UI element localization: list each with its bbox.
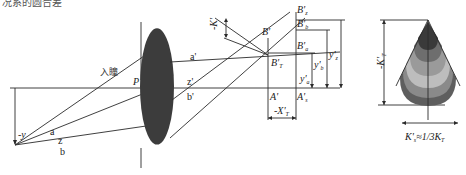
label-B-prime: B' — [262, 26, 271, 37]
arrow-head-icon — [339, 84, 343, 88]
diagram-canvas: 况系的圆合差 -y 入瞳 a z b P a' z' b' -K' B' B'T… — [0, 0, 466, 175]
coma-flare-figure: -K'T K's≈1/3KT — [375, 20, 460, 143]
label-B-prime-a: B'a — [297, 40, 308, 52]
label-z: z — [58, 135, 63, 146]
label-b: b — [60, 146, 65, 157]
label-y-prime-z: y'z — [328, 49, 339, 61]
ray-a — [15, 45, 160, 145]
label-neg-X-prime-T: -X'T — [274, 105, 290, 117]
arrow-head-icon — [268, 116, 272, 120]
label-coma-relation: K's≈1/3KT — [404, 131, 445, 143]
label-b-prime: b' — [187, 91, 194, 102]
upper-ray-1 — [215, 18, 268, 55]
arrow-head-icon — [325, 84, 329, 88]
arrow-head-icon — [310, 84, 314, 88]
label-P: P — [132, 76, 139, 87]
ray-b — [15, 124, 160, 145]
upper-ray-2 — [224, 38, 268, 55]
label-a-prime: a' — [190, 51, 196, 62]
label-y-prime-b: y'b — [313, 59, 324, 71]
label-B-prime-T: B'T — [271, 57, 283, 69]
label-B-prime-z: B'z — [297, 4, 308, 16]
label-A-prime-s: A's — [296, 91, 308, 103]
label-z-prime: z' — [187, 76, 193, 87]
label-neg-K-prime: -K' — [208, 17, 219, 30]
top-caption: 况系的圆合差 — [2, 0, 62, 8]
label-y-prime-a: y'a — [299, 73, 310, 85]
arrow-head-icon — [224, 18, 228, 22]
arrow-head-icon — [224, 34, 228, 38]
optical-coma-diagram: 况系的圆合差 -y 入瞳 a z b P a' z' b' -K' B' B'T… — [0, 0, 466, 175]
arrow-head-icon — [454, 121, 458, 125]
arrow-head-icon — [382, 101, 386, 105]
label-neg-K-prime-T: -K'T — [375, 53, 387, 69]
ray-z — [15, 87, 160, 145]
label-a: a — [50, 126, 55, 137]
arrow-head-icon — [292, 116, 296, 120]
label-A-prime: A' — [269, 91, 279, 102]
arrow-head-icon — [382, 20, 386, 24]
arrow-head-icon — [402, 121, 406, 125]
lens — [140, 28, 174, 144]
